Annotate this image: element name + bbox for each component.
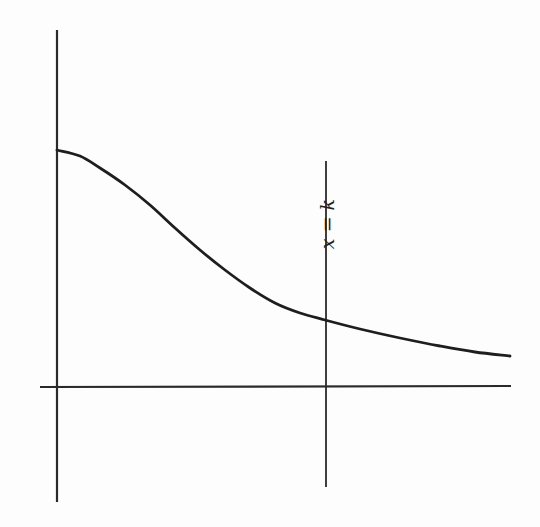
diagram-canvas: x = k [0, 0, 540, 527]
function-curve [57, 150, 510, 356]
line-label: x = k [315, 194, 339, 254]
graph-svg [0, 0, 540, 527]
x-axis [40, 386, 511, 387]
